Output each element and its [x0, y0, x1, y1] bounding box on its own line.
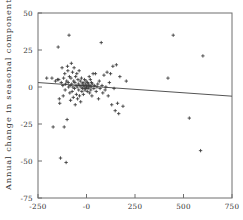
y-tick-label: 50: [23, 9, 33, 18]
y-axis-tick-labels: 50250-25-50-75: [21, 9, 34, 203]
y-tick-label: 0: [28, 83, 33, 92]
y-tick-label: -25: [21, 120, 34, 129]
y-axis-label: Annual change in seasonal component: [3, 0, 13, 191]
scatter-plot-figure: -250-0250500750 50250-25-50-75 Annual ch…: [0, 0, 243, 220]
x-tick-label: 250: [128, 202, 143, 211]
y-tick-label: -50: [21, 157, 34, 166]
plot-area-border: [38, 13, 232, 198]
x-tick-label: -250: [29, 202, 46, 211]
chart-canvas: -250-0250500750 50250-25-50-75 Annual ch…: [0, 0, 243, 220]
y-tick-label: 25: [23, 46, 33, 55]
x-tick-label: -0: [83, 202, 91, 211]
y-tick-label: -75: [21, 194, 34, 203]
x-tick-label: 750: [225, 202, 240, 211]
x-axis-tick-labels: -250-0250500750: [29, 202, 239, 211]
plot-frame: [38, 13, 232, 198]
x-tick-label: 500: [176, 202, 191, 211]
